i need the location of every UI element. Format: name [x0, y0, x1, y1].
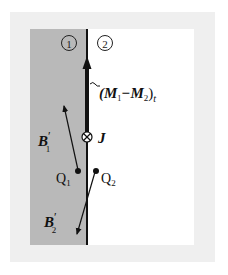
q1-point: [75, 168, 81, 174]
boundary-diagram: 1 2 (M1−M2)t J B′1 Q1: [0, 0, 228, 275]
current-density-label: J: [97, 130, 106, 146]
svg-text:1: 1: [66, 38, 72, 50]
current-into-page-icon: [82, 132, 92, 142]
q2-point: [93, 168, 99, 174]
svg-text:2: 2: [102, 38, 108, 50]
